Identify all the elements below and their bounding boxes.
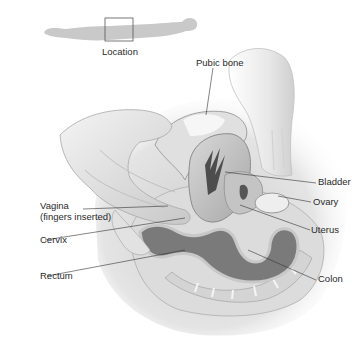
label-cervix: Cervix xyxy=(40,234,67,245)
anatomy-illustration xyxy=(0,0,364,343)
label-vagina-note: (fingers inserted) xyxy=(40,211,111,222)
label-rectum: Rectum xyxy=(40,270,73,281)
label-ovary: Ovary xyxy=(313,196,338,207)
label-vagina: Vagina xyxy=(40,200,69,211)
label-colon: Colon xyxy=(318,273,343,284)
label-uterus: Uterus xyxy=(311,224,339,235)
label-bladder: Bladder xyxy=(318,176,351,187)
label-pubic-bone: Pubic bone xyxy=(196,57,244,68)
label-location: Location xyxy=(102,46,138,57)
diagram-canvas: Location Pubic bone Bladder Ovary Vagina… xyxy=(0,0,364,343)
body-silhouette-icon xyxy=(44,18,197,40)
ovary xyxy=(255,193,289,213)
